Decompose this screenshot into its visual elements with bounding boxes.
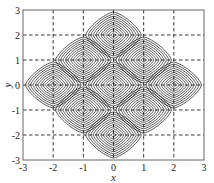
- y-tick-label: -2: [12, 130, 20, 141]
- y-axis-label: y: [1, 82, 13, 88]
- y-tick-label: -3: [12, 155, 20, 166]
- x-tick-label: 2: [171, 162, 176, 173]
- grid-lines: [23, 10, 204, 160]
- x-tick-label: 3: [202, 162, 207, 173]
- y-tick-label: 0: [15, 80, 20, 91]
- x-tick-label: -2: [49, 162, 57, 173]
- y-tick-label: 1: [15, 55, 20, 66]
- x-tick-label: 1: [141, 162, 146, 173]
- contour-chart: -3-2-10123 -3-2-10123 x y: [0, 0, 214, 183]
- x-axis-label: x: [110, 171, 116, 183]
- x-tick-label: -1: [79, 162, 87, 173]
- y-tick-label: -1: [12, 105, 20, 116]
- y-tick-label: 3: [15, 5, 20, 16]
- y-tick-label: 2: [15, 30, 20, 41]
- x-tick-label: -3: [19, 162, 27, 173]
